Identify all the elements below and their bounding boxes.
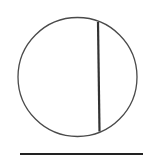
chord-line [98, 22, 100, 132]
circle-chord-diagram [0, 0, 147, 159]
circle [18, 18, 137, 137]
